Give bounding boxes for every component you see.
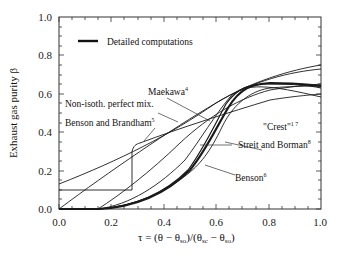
annotation-sup: 8 — [308, 139, 311, 145]
y-tick-label: 0.6 — [38, 88, 52, 100]
y-tick-label: 0.2 — [38, 165, 52, 177]
curves — [59, 65, 321, 209]
y-tick-labels: 0.0 0.2 0.4 0.6 0.8 1.0 — [38, 11, 52, 215]
x-tick-label: 1.0 — [313, 216, 327, 228]
annotation-sup: 6 — [264, 172, 267, 178]
annotation-text: Benson — [235, 173, 264, 183]
x-tick-label: 0.4 — [157, 216, 171, 228]
y-tick-label: 0.0 — [38, 203, 52, 215]
annotation-maekawa: Maekawa4 — [148, 86, 188, 97]
chart: 0.0 0.2 0.4 0.6 0.8 1.0 0.0 0.2 0.4 0.6 … — [0, 0, 344, 262]
y-tick-label: 0.4 — [38, 126, 52, 138]
curve-nonisoth — [59, 69, 321, 209]
annotation-text: Streit and Borman — [238, 140, 308, 150]
x-tick-label: 0.6 — [209, 216, 223, 228]
y-axis-title: Exhaust gas purity β — [7, 67, 19, 158]
annotation-crest: "Crest"1 7 — [263, 121, 298, 132]
legend-label: Detailed computations — [107, 37, 193, 47]
x-axis-title-part: ) — [231, 231, 235, 244]
annotation-sup: 4 — [185, 86, 188, 92]
annotation-benson-brandham: Benson and Brandham5 — [65, 117, 155, 128]
annotation-benson: Benson6 — [235, 172, 267, 183]
annotation-text: "Crest" — [263, 122, 291, 132]
x-axis-title: τ = (θ − θso)/(θsc − θso) — [138, 231, 235, 245]
y-tick-label: 0.8 — [38, 49, 52, 61]
y-tick-label: 1.0 — [38, 11, 52, 23]
annotation-text: Maekawa — [148, 87, 186, 97]
annotation-streit-borman: Streit and Borman8 — [238, 139, 311, 150]
x-axis-title-part: − θ — [208, 231, 225, 243]
x-tick-label: 0.0 — [52, 216, 66, 228]
annotation-text: Benson and Brandham — [65, 118, 152, 128]
x-tick-label: 0.2 — [104, 216, 118, 228]
annotation-sup: 5 — [152, 117, 155, 123]
annotation-sup: 1 7 — [291, 121, 299, 127]
annotation-nonisoth: Non-isoth. perfect mix. — [65, 99, 154, 109]
x-axis-title-part: τ = (θ − θ — [138, 231, 180, 244]
x-tick-label: 0.8 — [262, 216, 276, 228]
x-tick-labels: 0.0 0.2 0.4 0.6 0.8 1.0 — [52, 216, 327, 228]
x-axis-title-part: )/(θ — [186, 231, 202, 244]
